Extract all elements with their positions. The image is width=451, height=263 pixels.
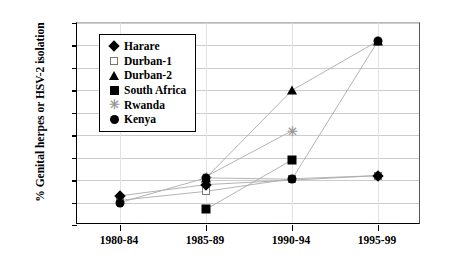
- legend-item-label: Durban-1: [124, 55, 172, 67]
- data-point-south-africa: [288, 155, 297, 164]
- legend-item-durban-2: Durban-2: [106, 68, 186, 83]
- x-axis-tick-label: 1995-99: [332, 234, 422, 246]
- y-axis-title: % Genital herpes or HSV-2 isolation: [34, 2, 46, 222]
- legend-item-durban-1: Durban-1: [106, 54, 186, 69]
- chart-root: % Genital herpes or HSV-2 isolation 0510…: [0, 0, 451, 263]
- star-x-icon: ✳: [106, 100, 122, 109]
- x-axis-tick-mark: [120, 225, 121, 231]
- legend-item-harare: Harare: [106, 39, 186, 54]
- legend-item-south-africa: South Africa: [106, 83, 186, 98]
- legend-item-label: Harare: [124, 40, 160, 52]
- filled-diamond-icon: [106, 42, 122, 50]
- filled-square-icon: [106, 86, 122, 95]
- x-axis-tick-mark: [378, 225, 379, 231]
- legend-item-label: South Africa: [124, 84, 186, 96]
- chart-legend: HarareDurban-1Durban-2South Africa✳Rwand…: [99, 34, 196, 132]
- open-square-icon: [106, 57, 122, 65]
- x-axis-tick-label: 1985-89: [160, 234, 250, 246]
- data-point-kenya: [288, 175, 297, 184]
- x-axis-tick-label: 1990-94: [246, 234, 336, 246]
- legend-item-rwanda: ✳Rwanda: [106, 97, 186, 112]
- data-point-rwanda: ✳: [287, 126, 298, 135]
- data-point-south-africa: [202, 205, 211, 214]
- filled-triangle-icon: [106, 71, 122, 80]
- y-axis-tick-mark: [72, 225, 77, 226]
- x-axis-tick-mark: [206, 225, 207, 231]
- filled-circle-icon: [106, 115, 122, 124]
- legend-item-label: Durban-2: [124, 69, 172, 81]
- data-point-kenya: [374, 36, 383, 45]
- data-point-durban-2: [287, 86, 297, 95]
- legend-item-label: Kenya: [124, 113, 156, 125]
- x-axis-tick-mark: [292, 225, 293, 231]
- legend-item-kenya: Kenya: [106, 112, 186, 127]
- x-axis-tick-label: 1980-84: [74, 234, 164, 246]
- legend-item-label: Rwanda: [124, 99, 165, 111]
